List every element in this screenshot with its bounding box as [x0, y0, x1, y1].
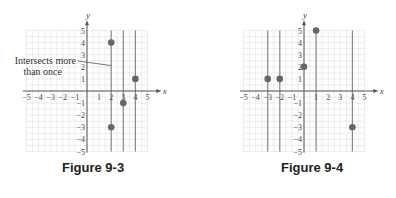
y-axis-arrow-icon	[302, 20, 306, 25]
svg-text:−5: −5	[76, 148, 85, 157]
svg-text:5: 5	[298, 27, 302, 36]
svg-text:3: 3	[298, 51, 302, 60]
svg-text:x: x	[162, 86, 167, 96]
svg-text:1: 1	[97, 93, 101, 102]
svg-text:−3: −3	[293, 123, 302, 132]
x-axis-arrow-icon	[373, 89, 378, 93]
svg-text:−2: −2	[293, 111, 302, 120]
svg-text:2: 2	[109, 93, 113, 102]
data-point	[313, 27, 320, 34]
annotation-text: than once	[23, 66, 62, 77]
svg-text:y: y	[85, 10, 90, 20]
svg-text:5: 5	[363, 93, 367, 102]
svg-text:3: 3	[338, 93, 342, 102]
svg-text:−3: −3	[46, 93, 55, 102]
data-point	[301, 64, 308, 71]
annotation-text: Intersects more	[15, 55, 77, 66]
svg-text:5: 5	[146, 93, 150, 102]
figure-9-3-caption: Figure 9-3	[62, 160, 124, 175]
svg-text:4: 4	[298, 39, 302, 48]
svg-text:−4: −4	[34, 93, 43, 102]
data-point	[132, 76, 139, 83]
svg-text:2: 2	[81, 63, 85, 72]
svg-text:4: 4	[81, 39, 85, 48]
svg-text:5: 5	[81, 27, 85, 36]
svg-text:−5: −5	[293, 148, 302, 157]
data-point	[277, 76, 284, 83]
svg-text:−4: −4	[251, 93, 260, 102]
data-point	[108, 124, 115, 131]
svg-text:−2: −2	[59, 93, 68, 102]
svg-text:3: 3	[81, 51, 85, 60]
svg-text:−4: −4	[76, 135, 85, 144]
svg-text:−3: −3	[263, 93, 272, 102]
svg-text:1: 1	[298, 75, 302, 84]
svg-text:−5: −5	[22, 93, 31, 102]
data-point	[108, 39, 115, 46]
data-point	[120, 100, 127, 107]
y-axis-arrow-icon	[85, 20, 89, 25]
svg-text:x: x	[379, 86, 384, 96]
x-axis-arrow-icon	[156, 89, 161, 93]
svg-text:1: 1	[81, 75, 85, 84]
data-point	[349, 124, 356, 131]
svg-text:2: 2	[326, 93, 330, 102]
svg-text:y: y	[302, 10, 307, 20]
svg-text:−1: −1	[76, 99, 85, 108]
svg-text:−2: −2	[76, 111, 85, 120]
data-point	[264, 76, 271, 83]
svg-text:4: 4	[350, 93, 354, 102]
svg-text:4: 4	[133, 93, 137, 102]
svg-text:−4: −4	[293, 135, 302, 144]
svg-text:−5: −5	[239, 93, 248, 102]
svg-text:−3: −3	[76, 123, 85, 132]
figure-9-4-caption: Figure 9-4	[281, 160, 343, 175]
svg-text:1: 1	[314, 93, 318, 102]
svg-text:−2: −2	[276, 93, 285, 102]
svg-text:−1: −1	[293, 99, 302, 108]
